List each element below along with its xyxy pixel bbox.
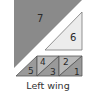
piece-7-label: 7 xyxy=(37,13,43,24)
left-wing-diagram: 7 6 5 4 3 2 1 xyxy=(0,0,96,80)
piece-3-label: 3 xyxy=(50,67,56,77)
piece-4-label: 4 xyxy=(40,57,46,67)
diagram-caption: Left wing xyxy=(0,80,96,92)
piece-2-label: 2 xyxy=(63,57,69,67)
piece-6-label: 6 xyxy=(70,32,76,43)
piece-5-label: 5 xyxy=(28,66,34,76)
piece-1-label: 1 xyxy=(74,67,80,77)
